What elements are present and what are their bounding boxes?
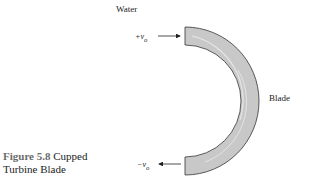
outflow-velocity-label: −vo [137, 160, 149, 171]
inflow-velocity-label: +vo [135, 32, 147, 43]
inflow-velocity-subscript: o [144, 36, 147, 43]
inflow-velocity-symbol: +v [135, 32, 144, 41]
figure-number: Figure 5.8 [3, 150, 50, 162]
outflow-velocity-subscript: o [146, 164, 149, 171]
blade-label: Blade [269, 93, 290, 103]
water-label: Water [116, 4, 137, 14]
figure-caption: Figure 5.8 Cupped Turbine Blade [3, 150, 87, 176]
caption-line1: Cupped [53, 150, 87, 162]
outflow-velocity-symbol: −v [137, 160, 146, 169]
caption-line2: Turbine Blade [3, 163, 66, 175]
